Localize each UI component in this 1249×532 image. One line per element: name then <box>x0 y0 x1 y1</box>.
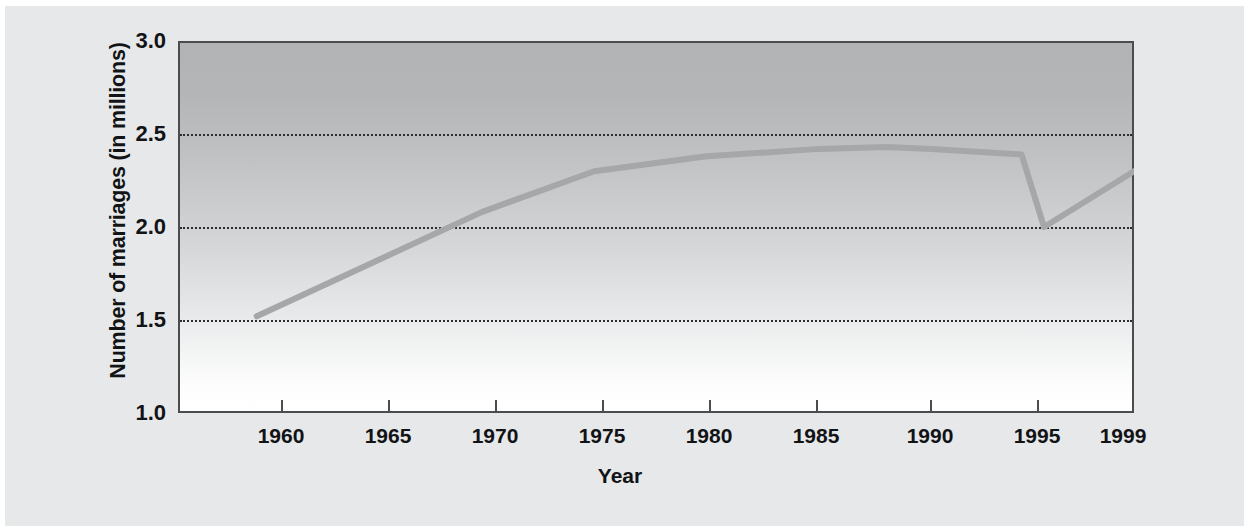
x-tick-label-1960: 1960 <box>236 425 326 446</box>
x-tick-label-1980: 1980 <box>664 425 754 446</box>
x-tick-label-1975: 1975 <box>557 425 647 446</box>
x-axis-tick-labels: 1960 1965 1970 1975 1980 1985 1990 1995 … <box>0 0 1249 532</box>
x-tick-mark-1960 <box>281 400 283 413</box>
x-tick-label-1995: 1995 <box>992 425 1082 446</box>
x-axis-title: Year <box>520 464 720 488</box>
x-tick-label-1985: 1985 <box>771 425 861 446</box>
x-tick-label-1970: 1970 <box>450 425 540 446</box>
x-tick-mark-1995 <box>1037 400 1039 413</box>
figure: Number of marriages (in millions) 3.0 2.… <box>0 0 1249 532</box>
x-tick-mark-1965 <box>388 400 390 413</box>
x-tick-mark-1970 <box>495 400 497 413</box>
x-tick-label-1999: 1999 <box>1078 425 1168 446</box>
x-tick-label-1965: 1965 <box>343 425 433 446</box>
x-tick-label-1990: 1990 <box>885 425 975 446</box>
x-tick-mark-1980 <box>709 400 711 413</box>
x-tick-mark-1985 <box>816 400 818 413</box>
x-tick-mark-1975 <box>602 400 604 413</box>
x-tick-mark-1990 <box>930 400 932 413</box>
